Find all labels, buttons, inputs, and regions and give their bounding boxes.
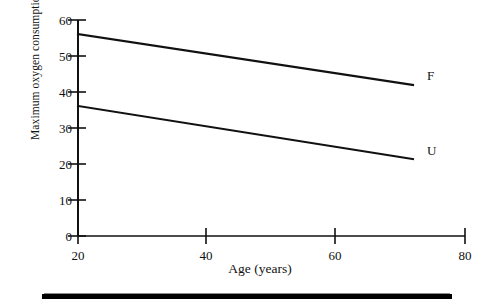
series-label-f: F xyxy=(427,69,434,82)
chart-figure: Maximum oxygen consumption (ml/kg/min.) … xyxy=(0,0,485,308)
series-line-f xyxy=(78,34,413,85)
plot-area xyxy=(0,0,485,308)
series-label-u: U xyxy=(427,144,436,157)
series-line-u xyxy=(78,106,413,159)
bottom-rule xyxy=(42,294,452,299)
